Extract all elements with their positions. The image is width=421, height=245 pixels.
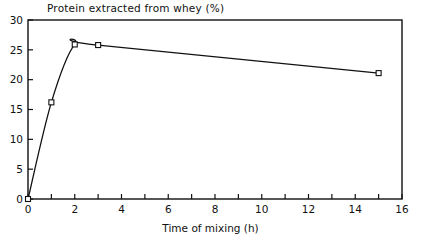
chart-figure: Protein extracted from whey (%) 05101520… xyxy=(0,0,421,245)
y-tick-label-0: 0 xyxy=(16,193,23,205)
plot-area: 051015202530 0246810121416 xyxy=(0,0,421,245)
data-point-1 xyxy=(49,100,54,105)
data-line-series xyxy=(28,39,379,199)
data-point-markers xyxy=(26,42,382,202)
x-tick-label-16: 16 xyxy=(395,203,409,215)
x-tick-label-4: 4 xyxy=(118,203,125,215)
x-axis-label: Time of mixing (h) xyxy=(0,222,421,234)
y-tick-label-15: 15 xyxy=(10,103,23,115)
data-point-15 xyxy=(376,71,381,76)
y-tick-label-30: 30 xyxy=(10,14,23,26)
x-tick-label-14: 14 xyxy=(349,203,363,215)
data-point-2 xyxy=(72,42,77,47)
x-tick-label-10: 10 xyxy=(255,203,268,215)
x-tick-label-8: 8 xyxy=(212,203,219,215)
y-tick-label-20: 20 xyxy=(10,73,23,85)
x-tick-label-0: 0 xyxy=(25,203,32,215)
y-tick-label-25: 25 xyxy=(10,44,23,56)
x-axis-ticks xyxy=(28,194,402,199)
x-tick-label-12: 12 xyxy=(302,203,315,215)
axes-frame xyxy=(28,20,402,199)
y-axis-ticks xyxy=(28,20,33,199)
x-tick-label-2: 2 xyxy=(71,203,78,215)
x-tick-label-6: 6 xyxy=(165,203,172,215)
y-tick-label-10: 10 xyxy=(10,133,23,145)
data-point-3 xyxy=(96,43,101,48)
y-tick-label-5: 5 xyxy=(16,163,23,175)
y-axis-tick-labels: 051015202530 xyxy=(10,14,23,205)
x-axis-tick-labels: 0246810121416 xyxy=(25,203,409,215)
data-point-0 xyxy=(26,197,31,202)
